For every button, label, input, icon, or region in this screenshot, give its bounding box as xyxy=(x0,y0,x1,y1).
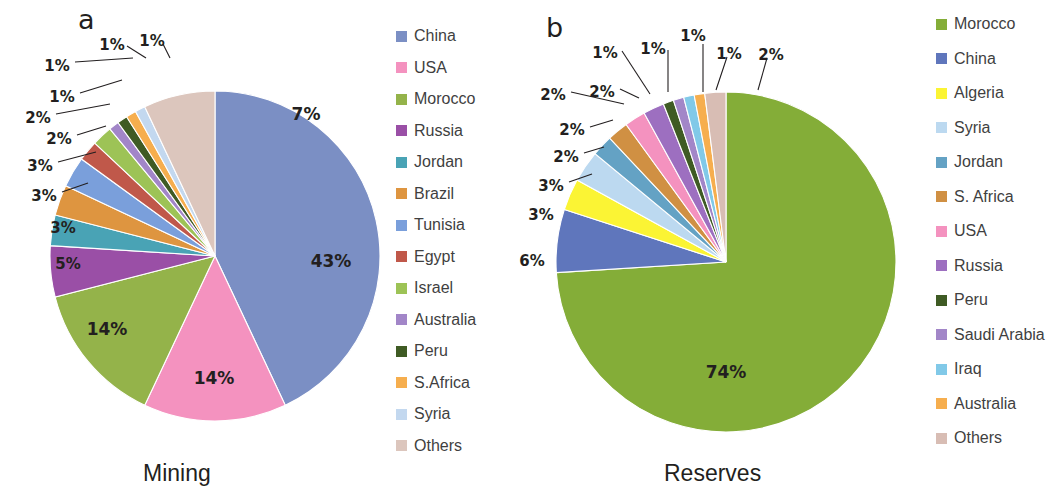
slice-percent-label: 2% xyxy=(589,83,614,101)
slice-percent-label: 6% xyxy=(519,252,544,270)
mining-legend-item[interactable]: Brazil xyxy=(396,186,454,202)
legend-item-label: Australia xyxy=(954,396,1016,412)
slice-percent-label: 3% xyxy=(31,187,56,205)
legend-color-swatch xyxy=(396,440,407,451)
legend-color-swatch xyxy=(936,329,947,340)
leader-line xyxy=(75,58,133,62)
legend-item-label: Saudi Arabia xyxy=(954,327,1045,343)
slice-percent-label: 3% xyxy=(538,177,563,195)
slice-percent-label: 14% xyxy=(194,368,235,388)
mining-legend-item[interactable]: USA xyxy=(396,60,447,76)
legend-item-label: Iraq xyxy=(954,361,982,377)
reserves-legend-item[interactable]: Iraq xyxy=(936,361,982,377)
mining-legend-item[interactable]: China xyxy=(396,28,456,44)
reserves-legend-item[interactable]: USA xyxy=(936,223,987,239)
legend-color-swatch xyxy=(936,398,947,409)
panel-caption-reserves: Reserves xyxy=(664,460,761,487)
legend-item-label: Brazil xyxy=(414,186,454,202)
legend-color-swatch xyxy=(936,260,947,271)
mining-legend-item[interactable]: Morocco xyxy=(396,91,475,107)
leader-line xyxy=(620,89,639,98)
legend-item-label: Syria xyxy=(954,120,990,136)
reserves-legend-item[interactable]: Algeria xyxy=(936,85,1004,101)
reserves-legend-item[interactable]: Others xyxy=(936,430,1002,446)
leader-line xyxy=(77,126,106,135)
legend-color-swatch xyxy=(936,53,947,64)
slice-percent-label: 3% xyxy=(50,219,75,237)
slice-percent-label: 1% xyxy=(44,57,69,75)
mining-legend-item[interactable]: Australia xyxy=(396,312,476,328)
legend-item-label: Peru xyxy=(414,343,448,359)
slice-percent-label: 1% xyxy=(640,40,665,58)
panel-mining: a 43%14%14%5%3%3%3%2%2%1%1%1%1%7% Mining… xyxy=(0,0,520,497)
legend-item-label: S.Africa xyxy=(414,375,470,391)
slice-percent-label: 14% xyxy=(87,319,128,339)
legend-item-label: Australia xyxy=(414,312,476,328)
legend-color-swatch xyxy=(396,125,407,136)
leader-line xyxy=(56,104,110,114)
legend-item-label: Egypt xyxy=(414,249,455,265)
reserves-legend-item[interactable]: Saudi Arabia xyxy=(936,327,1045,343)
mining-legend-item[interactable]: Russia xyxy=(396,123,463,139)
slice-percent-label: 2% xyxy=(540,86,565,104)
legend-color-swatch xyxy=(396,251,407,262)
legend-color-swatch xyxy=(936,191,947,202)
reserves-legend-item[interactable]: Peru xyxy=(936,292,988,308)
slice-percent-label: 43% xyxy=(311,251,352,271)
slice-percent-label: 1% xyxy=(99,36,124,54)
reserves-legend-item[interactable]: China xyxy=(936,51,996,67)
slice-percent-label: 2% xyxy=(46,130,71,148)
legend-color-swatch xyxy=(936,364,947,375)
legend-color-swatch xyxy=(396,62,407,73)
slice-percent-label: 5% xyxy=(55,255,80,273)
legend-item-label: Tunisia xyxy=(414,217,465,233)
mining-legend-item[interactable]: Others xyxy=(396,438,462,454)
legend-color-swatch xyxy=(396,283,407,294)
figure-root: a 43%14%14%5%3%3%3%2%2%1%1%1%1%7% Mining… xyxy=(0,0,1058,497)
slice-percent-label: 2% xyxy=(758,46,783,64)
legend-item-label: Israel xyxy=(414,280,453,296)
legend-item-label: Jordan xyxy=(414,154,463,170)
legend-item-label: Syria xyxy=(414,406,450,422)
mining-legend-item[interactable]: Israel xyxy=(396,280,453,296)
reserves-legend-item[interactable]: S. Africa xyxy=(936,189,1014,205)
panel-caption-mining: Mining xyxy=(143,460,211,487)
slice-percent-label: 1% xyxy=(680,27,705,45)
legend-item-label: Others xyxy=(414,438,462,454)
reserves-legend-item[interactable]: Russia xyxy=(936,258,1003,274)
reserves-legend-item[interactable]: Morocco xyxy=(936,16,1015,32)
slice-percent-label: 7% xyxy=(292,104,321,124)
mining-legend-item[interactable]: Tunisia xyxy=(396,217,465,233)
legend-item-label: Jordan xyxy=(954,154,1003,170)
mining-legend-item[interactable]: Syria xyxy=(396,406,450,422)
slice-percent-label: 3% xyxy=(27,157,52,175)
reserves-legend-item[interactable]: Australia xyxy=(936,396,1016,412)
mining-legend-item[interactable]: Jordan xyxy=(396,154,463,170)
legend-item-label: S. Africa xyxy=(954,189,1014,205)
mining-legend-item[interactable]: Egypt xyxy=(396,249,455,265)
legend-color-swatch xyxy=(396,220,407,231)
legend-item-label: USA xyxy=(954,223,987,239)
legend-item-label: Russia xyxy=(954,258,1003,274)
pie-chart-reserves: 74%6%3%3%2%2%2%2%1%1%1%1%2% xyxy=(520,0,1058,497)
legend-color-swatch xyxy=(936,295,947,306)
legend-color-swatch xyxy=(396,346,407,357)
legend-color-swatch xyxy=(396,409,407,420)
reserves-legend-item[interactable]: Syria xyxy=(936,120,990,136)
legend-item-label: Peru xyxy=(954,292,988,308)
leader-line xyxy=(590,120,613,127)
legend-item-label: Russia xyxy=(414,123,463,139)
legend-color-swatch xyxy=(936,226,947,237)
legend-color-swatch xyxy=(396,31,407,42)
legend-color-swatch xyxy=(396,94,407,105)
legend-item-label: Others xyxy=(954,430,1002,446)
legend-color-swatch xyxy=(936,122,947,133)
mining-legend-item[interactable]: S.Africa xyxy=(396,375,470,391)
slice-percent-label: 2% xyxy=(559,121,584,139)
slice-percent-label: 2% xyxy=(553,148,578,166)
slice-percent-label: 74% xyxy=(706,362,747,382)
slice-percent-label: 1% xyxy=(49,88,74,106)
leader-line xyxy=(80,80,122,93)
mining-legend-item[interactable]: Peru xyxy=(396,343,448,359)
reserves-legend-item[interactable]: Jordan xyxy=(936,154,1003,170)
